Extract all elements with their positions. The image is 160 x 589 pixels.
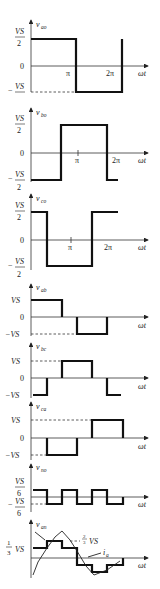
svg-text:ωt: ωt xyxy=(138,156,147,165)
svg-text:VS: VS xyxy=(15,497,24,506)
svg-text:ωt: ωt xyxy=(138,561,147,570)
svg-text:v: v xyxy=(36,520,40,529)
ylabel-v: v xyxy=(36,20,40,29)
svg-text:an: an xyxy=(41,524,47,530)
svg-text:VS: VS xyxy=(15,114,24,123)
svg-text:ωt: ωt xyxy=(138,500,147,509)
svg-text:0: 0 xyxy=(20,149,24,158)
svg-text:ab: ab xyxy=(41,287,47,293)
panel-v-ab: v ab VS 0 −VS ωt xyxy=(5,283,148,339)
svg-text:VS: VS xyxy=(89,537,98,546)
svg-text:2: 2 xyxy=(17,183,21,192)
svg-text:−: − xyxy=(8,500,13,509)
svg-text:ωt: ωt xyxy=(138,69,147,78)
panel-v-bc: v bc VS 0 −VS ωt xyxy=(5,342,148,400)
svg-text:0: 0 xyxy=(20,62,24,71)
ylabel-sub: ao xyxy=(41,24,47,30)
svg-text:3: 3 xyxy=(7,549,11,557)
svg-text:0: 0 xyxy=(20,236,24,245)
panel-v-co: v co VS 2 0 − VS 2 π 2π ωt xyxy=(8,194,148,279)
svg-text:VS: VS xyxy=(15,477,24,486)
waveform-figure: v ao VS 2 0 − VS π 2π ωt v bo VS 2 0 − V… xyxy=(0,0,160,589)
svg-text:VS: VS xyxy=(15,257,24,266)
svg-text:1: 1 xyxy=(7,539,11,547)
panel-v-no: v no VS 6 − VS 6 ωt xyxy=(8,463,148,518)
svg-text:π: π xyxy=(68,243,72,252)
svg-text:VS: VS xyxy=(15,545,24,554)
svg-text:π: π xyxy=(66,69,70,78)
svg-text:2π: 2π xyxy=(112,156,120,165)
svg-text:−VS: −VS xyxy=(5,451,19,460)
svg-text:v: v xyxy=(36,108,40,117)
svg-text:0: 0 xyxy=(20,313,24,322)
svg-text:ca: ca xyxy=(41,406,46,412)
panel-v-an: v an 1 3 VS 2 3 VS i a ωt xyxy=(6,520,148,578)
panel-v-bo: v bo VS 2 0 − VS 2 π 2π ωt xyxy=(8,108,148,192)
panel-v-ca: v ca VS 0 −VS ωt xyxy=(5,402,148,460)
svg-text:2: 2 xyxy=(83,534,86,539)
svg-text:2π: 2π xyxy=(106,69,114,78)
svg-text:−: − xyxy=(8,261,13,270)
svg-text:v: v xyxy=(36,283,40,292)
svg-text:v: v xyxy=(36,194,40,203)
svg-text:bc: bc xyxy=(41,346,47,352)
svg-text:ωt: ωt xyxy=(138,321,147,330)
svg-text:co: co xyxy=(41,198,46,204)
svg-text:VS: VS xyxy=(11,357,20,366)
svg-text:−VS: −VS xyxy=(5,330,19,339)
svg-text:a: a xyxy=(106,552,109,558)
svg-text:ωt: ωt xyxy=(138,382,147,391)
svg-text:v: v xyxy=(36,463,40,472)
svg-text:VS: VS xyxy=(11,416,20,425)
svg-text:2: 2 xyxy=(17,126,21,135)
svg-text:2: 2 xyxy=(17,213,21,222)
svg-text:v: v xyxy=(36,342,40,351)
svg-text:3: 3 xyxy=(83,540,86,545)
svg-text:VS: VS xyxy=(15,27,24,36)
svg-text:−: − xyxy=(8,174,13,183)
svg-text:VS: VS xyxy=(11,296,20,305)
svg-text:bo: bo xyxy=(41,112,47,118)
panel-v-ao: v ao VS 2 0 − VS π 2π ωt xyxy=(8,20,148,95)
svg-text:2: 2 xyxy=(17,270,21,279)
svg-text:−: − xyxy=(8,86,13,95)
svg-text:ωt: ωt xyxy=(138,442,147,451)
svg-text:2: 2 xyxy=(17,39,21,48)
svg-text:no: no xyxy=(41,467,47,473)
svg-text:π: π xyxy=(75,156,79,165)
svg-text:2π: 2π xyxy=(104,243,112,252)
svg-text:VS: VS xyxy=(15,82,24,91)
svg-text:−VS: −VS xyxy=(5,391,19,400)
svg-text:v: v xyxy=(36,402,40,411)
svg-text:0: 0 xyxy=(20,374,24,383)
svg-text:i: i xyxy=(103,548,105,557)
svg-text:0: 0 xyxy=(20,434,24,443)
svg-text:VS: VS xyxy=(15,201,24,210)
svg-text:6: 6 xyxy=(17,509,21,518)
svg-text:ωt: ωt xyxy=(138,243,147,252)
svg-text:VS: VS xyxy=(15,170,24,179)
